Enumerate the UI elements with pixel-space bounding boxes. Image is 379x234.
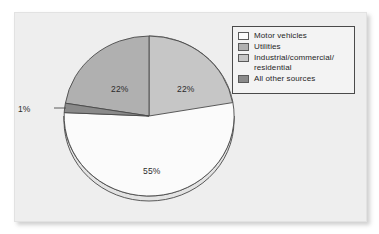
legend-label-motor-vehicles: Motor vehicles	[254, 31, 307, 41]
pie-chart-svg	[54, 22, 244, 217]
pie-label-utilities: 22%	[111, 84, 129, 94]
legend-label-all-other: All other sources	[254, 74, 315, 84]
pie-label-motor-vehicles: 55%	[143, 166, 161, 176]
pie-chart: 22% 22% 55%	[54, 22, 244, 217]
legend-label-industrial: Industrial/commercial/ residential	[254, 53, 334, 73]
legend-item-industrial: Industrial/commercial/ residential	[238, 53, 350, 73]
legend-swatch-icon-all-other	[238, 75, 249, 83]
pie-label-all-other: 1%	[18, 104, 30, 114]
chart-panel: 22% 22% 55% 1% Motor vehicles Utilities …	[14, 12, 367, 222]
pie-slice-utilities	[65, 36, 149, 116]
pie-slice-industrial	[149, 36, 233, 116]
legend-swatch-icon-utilities	[238, 43, 249, 51]
legend-item-all-other: All other sources	[238, 74, 350, 84]
legend-item-motor-vehicles: Motor vehicles	[238, 31, 350, 41]
chart-screenshot: 22% 22% 55% 1% Motor vehicles Utilities …	[0, 0, 379, 234]
legend-item-utilities: Utilities	[238, 42, 350, 52]
legend-label-utilities: Utilities	[254, 42, 281, 52]
pie-label-industrial: 22%	[177, 84, 195, 94]
legend-swatch-icon-motor-vehicles	[238, 32, 249, 40]
legend-swatch-icon-industrial	[238, 54, 249, 62]
legend: Motor vehicles Utilities Industrial/comm…	[232, 26, 355, 94]
